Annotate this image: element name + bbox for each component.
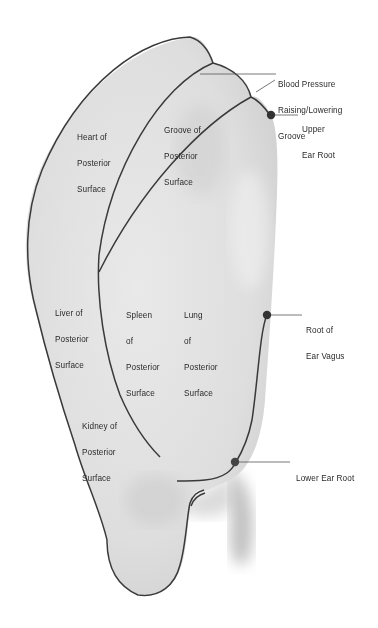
liver-line-2: Posterior: [55, 336, 89, 345]
heart-line-1: Heart of: [77, 134, 111, 143]
upper-ear-root-point[interactable]: [267, 111, 275, 119]
lung-line-4: Surface: [184, 390, 218, 399]
kidney-line-3: Surface: [82, 475, 117, 484]
root-ear-vagus-point[interactable]: [263, 311, 271, 319]
liver-line-1: Liver of: [55, 310, 89, 319]
lower-root-line-1: Lower Ear Root: [296, 475, 354, 484]
vagus-line-1: Root of: [306, 327, 345, 336]
groove-line-1: Groove of: [164, 127, 201, 136]
spleen-line-1: Spleen: [126, 312, 160, 321]
callout-upper-ear-root: Upper Ear Root: [302, 109, 335, 169]
label-kidney: Kidney of Posterior Surface: [82, 406, 117, 492]
upper-root-line-1: Upper: [302, 126, 335, 135]
groove-line-3: Surface: [164, 179, 201, 188]
lung-line-1: Lung: [184, 312, 218, 321]
bp-groove-leader-2: [256, 80, 275, 92]
bp-line-1: Blood Pressure: [278, 81, 342, 90]
callout-root-ear-vagus: Root of Ear Vagus: [306, 310, 345, 370]
label-groove: Groove of Posterior Surface: [164, 110, 201, 196]
label-liver: Liver of Posterior Surface: [55, 293, 89, 379]
spleen-line-4: Surface: [126, 390, 160, 399]
lung-line-3: Posterior: [184, 364, 218, 373]
lower-ear-root-point[interactable]: [231, 458, 239, 466]
spleen-line-2: of: [126, 338, 160, 347]
kidney-line-2: Posterior: [82, 449, 117, 458]
label-lung: Lung of Posterior Surface: [184, 295, 218, 407]
vagus-line-2: Ear Vagus: [306, 353, 345, 362]
upper-root-line-2: Ear Root: [302, 152, 335, 161]
heart-line-3: Surface: [77, 186, 111, 195]
label-spleen: Spleen of Posterior Surface: [126, 295, 160, 407]
kidney-line-1: Kidney of: [82, 423, 117, 432]
lung-line-2: of: [184, 338, 218, 347]
groove-line-2: Posterior: [164, 153, 201, 162]
liver-line-3: Surface: [55, 362, 89, 371]
callout-lower-ear-root: Lower Ear Root: [296, 458, 354, 492]
label-heart: Heart of Posterior Surface: [77, 117, 111, 203]
heart-line-2: Posterior: [77, 160, 111, 169]
spleen-line-3: Posterior: [126, 364, 160, 373]
